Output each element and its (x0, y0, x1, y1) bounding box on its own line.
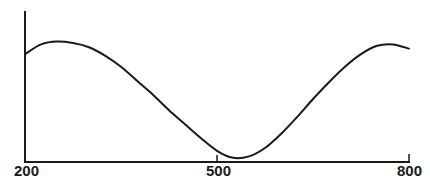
line-chart: 200 500 800 (0, 0, 430, 188)
x-tick-label-800: 800 (397, 162, 422, 179)
chart-canvas: 200 500 800 (0, 0, 430, 188)
x-tick-label-500: 500 (206, 162, 231, 179)
data-curve (25, 42, 409, 159)
x-tick-label-200: 200 (14, 162, 39, 179)
